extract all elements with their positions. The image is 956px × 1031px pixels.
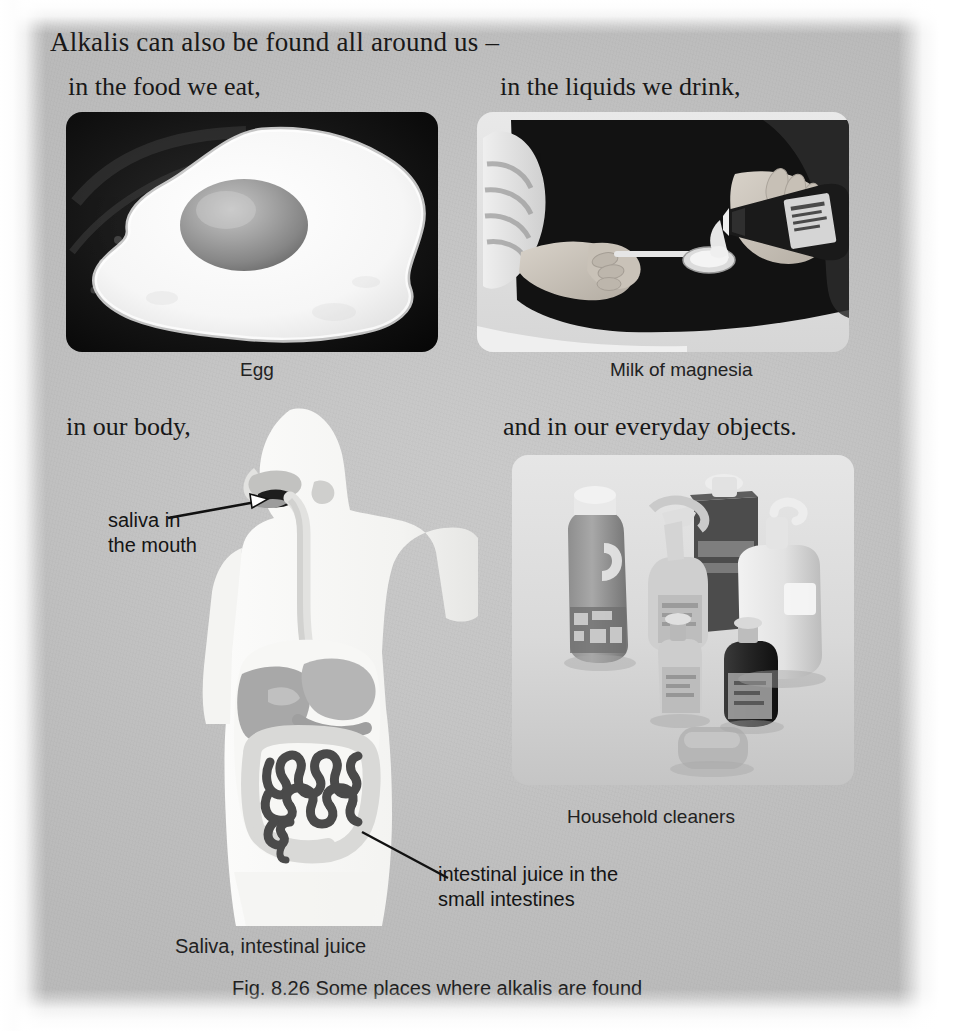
scanned-textbook-page: Alkalis can also be found all around us …: [0, 0, 956, 1031]
saliva-label-line1: saliva in: [108, 508, 197, 533]
page-edge-bottom: [0, 989, 956, 1031]
body-heading: in our body,: [66, 412, 191, 442]
page-edge-left: [0, 0, 46, 1031]
food-heading: in the food we eat,: [68, 72, 261, 102]
milk-of-magnesia-caption: Milk of magnesia: [610, 359, 830, 381]
intestinal-juice-label-line1: intestinal juice in the: [438, 862, 618, 887]
objects-heading: and in our everyday objects.: [503, 412, 797, 442]
page-edge-top: [0, 0, 956, 34]
intestinal-juice-label: intestinal juice in the small intestines: [438, 862, 618, 912]
egg-caption: Egg: [197, 359, 317, 381]
household-cleaners-caption: Household cleaners: [567, 806, 735, 828]
saliva-label-line2: the mouth: [108, 533, 197, 558]
body-diagram-caption: Saliva, intestinal juice: [175, 935, 366, 958]
liquids-heading: in the liquids we drink,: [500, 72, 740, 102]
saliva-label: saliva in the mouth: [108, 508, 197, 558]
milk-of-magnesia-photo: [477, 112, 849, 352]
household-cleaners-photo: [512, 455, 854, 785]
egg-photo: [66, 112, 438, 352]
page-edge-right: [898, 0, 956, 1031]
intestinal-juice-label-line2: small intestines: [438, 887, 618, 912]
